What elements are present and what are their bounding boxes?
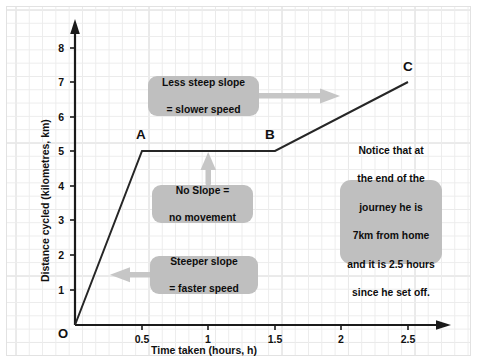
x-tick-label-0-5: 0.5: [135, 334, 150, 345]
y-tick-label-7: 7: [48, 77, 64, 88]
y-tick-label-5: 5: [48, 146, 64, 157]
callout-notice-line4: 7km from home: [346, 229, 436, 243]
callout-notice-line1: Notice that at: [346, 144, 436, 158]
chart-screenshot: Distance cycled (kilometres, km) Time ta…: [0, 0, 477, 362]
y-axis-arrowhead: [70, 19, 80, 34]
callout-notice-line2: the end of the: [346, 172, 436, 186]
callout-no-slope-line1: No Slope =: [158, 184, 247, 197]
callout-notice-line3: journey he is: [346, 201, 436, 215]
origin-label: O: [58, 327, 68, 340]
arrow-no-slope-up: [201, 152, 217, 185]
y-tick-label-2: 2: [48, 250, 64, 261]
arrow-less-steep-right: [256, 89, 340, 104]
callout-no-slope-line2: no movement: [158, 211, 247, 224]
point-label-b: B: [265, 128, 275, 142]
y-tick-label-4: 4: [48, 181, 64, 192]
y-tick-label-3: 3: [48, 215, 64, 226]
y-tick-label-8: 8: [48, 43, 64, 54]
y-tick-label-1: 1: [48, 285, 64, 296]
point-label-a: A: [136, 128, 146, 142]
x-tick-label-2: 2: [338, 334, 344, 345]
callout-notice-line6: since he set off.: [346, 286, 436, 300]
x-tick-label-2-5: 2.5: [401, 334, 416, 345]
callout-steeper-line1: Steeper slope: [156, 255, 252, 268]
callout-less-steep-slope: Less steep slope = slower speed: [148, 76, 259, 116]
callout-notice-line5: and it is 2.5 hours: [346, 258, 436, 272]
callout-no-slope: No Slope = no movement: [152, 185, 253, 223]
callout-notice: Notice that at the end of the journey he…: [340, 180, 442, 264]
callout-less-steep-line2: = slower speed: [154, 103, 253, 116]
x-axis-title: Time taken (hours, h): [151, 345, 257, 356]
point-label-c: C: [403, 60, 413, 74]
x-tick-label-1-5: 1.5: [268, 334, 283, 345]
callout-steeper-slope: Steeper slope = faster speed: [150, 256, 258, 294]
x-axis-arrowhead: [436, 320, 451, 330]
callout-steeper-line2: = faster speed: [156, 282, 252, 295]
x-tick-label-1: 1: [205, 334, 211, 345]
y-tick-label-6: 6: [48, 112, 64, 123]
callout-less-steep-line1: Less steep slope: [154, 76, 253, 89]
